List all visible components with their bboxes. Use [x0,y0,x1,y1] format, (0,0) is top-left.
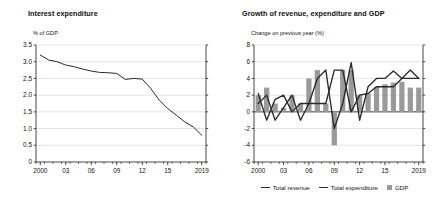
svg-text:-6: -6 [244,158,250,165]
svg-text:2.0: 2.0 [23,91,32,98]
legend-line-marker-total-revenue [261,187,270,188]
svg-text:8: 8 [246,41,250,48]
legend-label-total-revenue: Total revenue [273,184,310,191]
svg-text:3.5: 3.5 [23,41,32,48]
legend-swatch-marker-gdp [387,185,392,190]
svg-text:2000: 2000 [251,167,266,174]
svg-text:09: 09 [113,167,121,174]
svg-text:2000: 2000 [33,167,48,174]
legend-label-gdp: GDP [395,184,408,191]
svg-text:03: 03 [62,167,70,174]
svg-text:2.5: 2.5 [23,75,32,82]
chart-plot-right: -6-4-202468200003060912152019 [223,0,446,204]
svg-text:09: 09 [331,167,339,174]
svg-text:2019: 2019 [412,167,427,174]
legend-item-gdp: GDP [387,184,408,191]
svg-text:03: 03 [280,167,288,174]
svg-text:1.5: 1.5 [23,108,32,115]
svg-text:15: 15 [164,167,172,174]
svg-text:2019: 2019 [195,167,210,174]
chart-legend: Total revenueTotal expenditureGDP [223,184,446,191]
legend-line-marker-total-expenditure [319,187,328,188]
interest-expenditure-chart: 00.51.01.52.02.53.03.5200003060912152019 [0,0,223,204]
legend-item-total-expenditure: Total expenditure [319,184,378,191]
svg-text:4: 4 [246,75,250,82]
growth-chart: -6-4-202468200003060912152019 [223,0,446,204]
legend-label-total-expenditure: Total expenditure [331,184,378,191]
svg-text:12: 12 [139,167,147,174]
panel-growth: Growth of revenue, expenditure and GDP C… [223,0,446,204]
svg-text:0.5: 0.5 [23,141,32,148]
svg-text:3.0: 3.0 [23,58,32,65]
svg-text:06: 06 [305,167,313,174]
svg-text:-2: -2 [244,125,250,132]
svg-text:12: 12 [356,167,364,174]
legend-item-total-revenue: Total revenue [261,184,310,191]
svg-text:06: 06 [88,167,96,174]
svg-text:1.0: 1.0 [23,125,32,132]
svg-text:15: 15 [381,167,389,174]
svg-text:-4: -4 [244,141,250,148]
svg-text:0: 0 [28,158,32,165]
svg-text:2: 2 [246,91,250,98]
chart-plot-left: 00.51.01.52.02.53.03.5200003060912152019 [0,0,223,204]
svg-text:6: 6 [246,58,250,65]
panel-interest-expenditure: Interest expenditure % of GDP 00.51.01.5… [0,0,223,204]
svg-text:0: 0 [246,108,250,115]
